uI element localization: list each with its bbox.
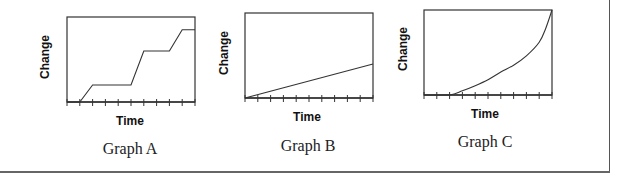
graph-c-plot [421, 7, 557, 103]
graph-c-xlabel: Time [455, 107, 515, 121]
graph-c-caption: Graph C [445, 133, 525, 151]
graph-b-ylabel: Change [217, 28, 231, 78]
figure-frame-right [609, 0, 610, 172]
graph-a-ylabel: Change [38, 32, 52, 82]
figure-frame-bottom [0, 171, 610, 173]
graph-a-caption: Graph A [90, 140, 170, 158]
graph-b-xlabel: Time [277, 110, 337, 124]
graph-a-plot [64, 14, 200, 110]
graph-b-plot [242, 10, 378, 106]
graph-c-ylabel: Change [396, 24, 410, 74]
graph-a-xlabel: Time [100, 114, 160, 128]
graph-b-caption: Graph B [268, 137, 348, 155]
